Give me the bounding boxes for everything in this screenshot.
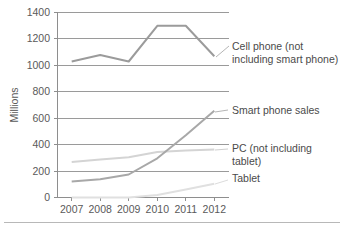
y-tickmarks <box>54 13 58 198</box>
leader-line-pc <box>215 149 228 150</box>
series-line-tablet <box>72 184 215 198</box>
y-tick-label-200: 200 <box>32 165 50 177</box>
series-label-smart-phone: Smart phone sales <box>232 104 320 116</box>
series-label-tablet: Tablet <box>232 172 260 184</box>
x-tick-labels: 2007 2008 2009 2010 2011 2012 <box>60 203 226 215</box>
leader-line-tablet <box>215 180 228 184</box>
gridlines <box>58 13 229 172</box>
x-tick-label-2010: 2010 <box>146 203 170 215</box>
chart-canvas: 1400 1200 1000 800 600 400 200 0 2007 20… <box>0 0 344 230</box>
series-label-cell-phone-line2: including smart phone) <box>232 53 338 65</box>
y-tick-label-1200: 1200 <box>27 32 51 44</box>
series-line-cell-phone <box>72 26 215 62</box>
leader-line-smart-phone <box>215 110 228 112</box>
x-tick-label-2009: 2009 <box>117 203 141 215</box>
y-tick-label-400: 400 <box>32 138 50 150</box>
series-line-pc <box>72 150 215 163</box>
y-axis-title: Millions <box>8 87 20 122</box>
y-tick-label-0: 0 <box>44 191 50 203</box>
series-label-pc-line1: PC (not including <box>232 142 312 154</box>
x-tick-label-2008: 2008 <box>89 203 113 215</box>
x-tick-label-2007: 2007 <box>60 203 84 215</box>
series-label-cell-phone-line1: Cell phone (not <box>232 40 303 52</box>
x-tick-label-2011: 2011 <box>175 203 198 215</box>
x-tick-label-2012: 2012 <box>203 203 227 215</box>
y-tick-labels: 1400 1200 1000 800 600 400 200 0 <box>27 6 51 203</box>
y-tick-label-800: 800 <box>32 85 50 97</box>
leader-line-cell-phone <box>216 46 229 57</box>
y-tick-label-1400: 1400 <box>27 6 51 18</box>
line-chart-figure: 1400 1200 1000 800 600 400 200 0 2007 20… <box>0 0 344 230</box>
y-tick-label-600: 600 <box>32 112 50 124</box>
series-label-pc-line2: tablet) <box>232 155 261 167</box>
y-tick-label-1000: 1000 <box>27 59 51 71</box>
